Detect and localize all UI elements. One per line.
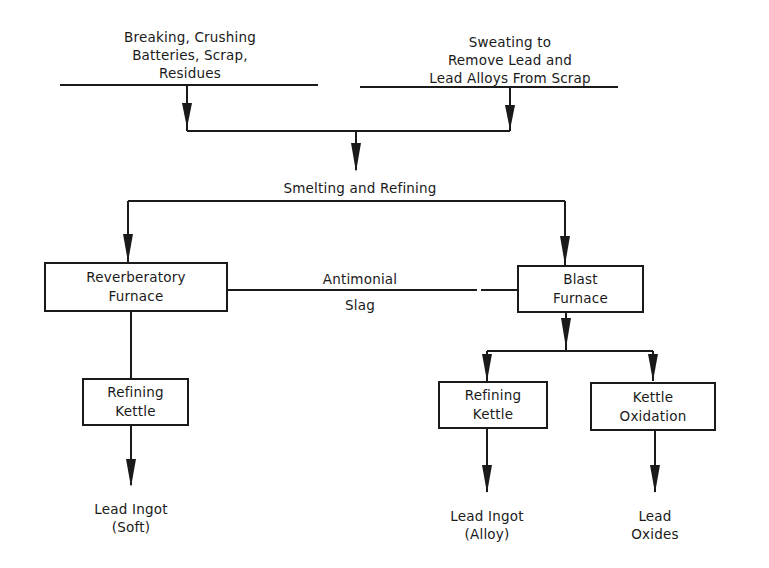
arrow-down-icon xyxy=(482,354,492,381)
node-reverberatory-furnace: Reverberatory Furnace xyxy=(44,262,228,312)
arrow-down-icon xyxy=(648,354,658,381)
arrow-down-icon xyxy=(126,459,136,487)
input-sweating-label: Sweating to Remove Lead and Lead Alloys … xyxy=(405,33,615,87)
arrow-down-icon xyxy=(182,103,192,128)
node-blast-furnace: Blast Furnace xyxy=(517,265,644,313)
node-refining-kettle-left: Refining Kettle xyxy=(82,378,189,426)
arrow-down-icon xyxy=(482,465,492,493)
slag-label-bottom: Slag xyxy=(290,296,430,314)
input-breaking-label: Breaking, Crushing Batteries, Scrap, Res… xyxy=(105,28,275,82)
node-refining-kettle-right: Refining Kettle xyxy=(438,381,548,429)
smelting-refining-label: Smelting and Refining xyxy=(240,179,480,197)
arrow-down-icon xyxy=(560,236,570,265)
arrow-down-icon xyxy=(505,105,515,130)
slag-label-top: Antimonial xyxy=(290,270,430,288)
output-lead-ingot-alloy: Lead Ingot (Alloy) xyxy=(426,507,548,543)
arrow-down-icon xyxy=(351,143,361,172)
output-lead-oxides: Lead Oxides xyxy=(600,507,710,543)
arrow-down-icon xyxy=(123,234,133,262)
arrow-down-icon xyxy=(561,318,571,348)
output-lead-ingot-soft: Lead Ingot (Soft) xyxy=(70,500,192,536)
arrow-down-icon xyxy=(650,465,660,493)
node-kettle-oxidation: Kettle Oxidation xyxy=(590,382,716,431)
